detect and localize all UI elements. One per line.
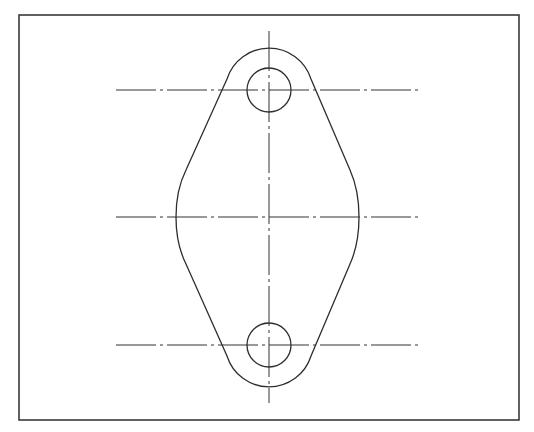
technical-drawing — [0, 0, 534, 432]
